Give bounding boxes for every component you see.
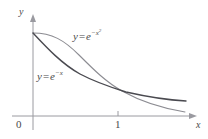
y-axis-label: y	[19, 7, 23, 17]
x-axis-label: x	[196, 120, 200, 130]
gaussian-exponent-text: −x	[91, 29, 99, 37]
origin-label: 0	[16, 119, 22, 130]
function-graph-figure: y x 0 1 y=e−x2 y=e−x	[0, 0, 208, 139]
exp-label-exponent: −x	[55, 69, 63, 77]
y-axis-arrowhead	[30, 14, 36, 22]
curve-label-gaussian: y=e−x2	[73, 28, 101, 42]
gaussian-exponent-power: 2	[99, 28, 102, 33]
plot-canvas	[0, 0, 208, 139]
x-tick-label-1: 1	[115, 119, 121, 130]
exp-label-equals: =	[42, 70, 50, 82]
gaussian-label-exponent: −x2	[91, 29, 101, 37]
gaussian-label-equals: =	[78, 30, 86, 42]
curve-exponential	[33, 33, 186, 101]
curve-label-exponential: y=e−x	[37, 70, 63, 82]
